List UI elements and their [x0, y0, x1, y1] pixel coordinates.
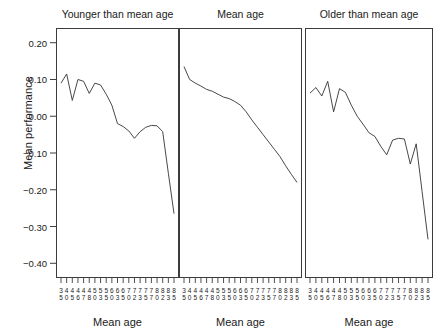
y-tick-label: 0.20: [29, 37, 48, 48]
x-tick-labels: 3540454647485053556063657072737577808283…: [305, 288, 433, 308]
y-tick-label: −0.30: [23, 221, 47, 232]
x-tick-label: 85: [293, 288, 301, 302]
x-tick-digit: 5: [424, 295, 432, 302]
data-line-series: [305, 28, 433, 290]
figure-three-panel-line-chart: Mean performance 0.200.100.00−0.10−0.20−…: [0, 0, 442, 334]
data-line-series: [56, 28, 179, 290]
x-tick-labels: 3540454647485053556063657072737577808283…: [179, 288, 302, 308]
y-tick-label: 0.10: [29, 74, 48, 85]
chart-panel-2: Mean age35404546474850535560636570727375…: [179, 0, 302, 334]
y-tick-label: −0.40: [23, 258, 47, 269]
y-tick-label: −0.20: [23, 184, 47, 195]
x-tick-digit: 5: [170, 295, 178, 302]
panel-title: Older than mean age: [305, 8, 433, 20]
panel-title: Mean age: [179, 8, 302, 20]
x-axis-label: Mean age: [305, 316, 433, 328]
y-tick-label: −0.10: [23, 148, 47, 159]
data-line-series: [179, 28, 302, 290]
chart-panel-1: Younger than mean age3540454647485053556…: [56, 0, 179, 334]
x-tick-digit: 5: [293, 295, 301, 302]
series-path: [184, 67, 297, 183]
y-axis-ticks: [0, 0, 56, 334]
series-path: [310, 81, 428, 239]
panel-title: Younger than mean age: [56, 8, 179, 20]
y-axis: 0.200.100.00−0.10−0.20−0.30−0.40: [0, 0, 56, 334]
chart-panel-3: Older than mean age354045464748505355606…: [305, 0, 433, 334]
x-tick-label: 85: [170, 288, 178, 302]
x-axis-label: Mean age: [179, 316, 302, 328]
x-tick-label: 85: [424, 288, 432, 302]
x-tick-labels: 3540454647485053556063657072737577808283…: [56, 288, 179, 308]
y-tick-label: 0.00: [29, 111, 48, 122]
x-axis-label: Mean age: [56, 316, 179, 328]
series-path: [61, 74, 174, 214]
